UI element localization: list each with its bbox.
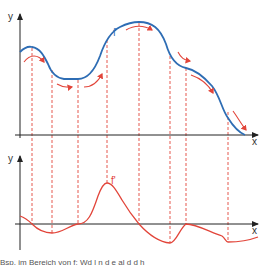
bottom-y-label: y	[8, 153, 13, 164]
derivative-diagram: y x f y x f'	[0, 0, 271, 265]
top-y-label: y	[8, 11, 13, 22]
f-prime-label: f'	[111, 175, 116, 186]
arrow-icon	[57, 84, 72, 87]
caption: Bsp. im Bereich von f: Wd l n d e al d d…	[0, 256, 271, 265]
slope-arrows	[24, 26, 246, 130]
f-label: f	[113, 27, 116, 38]
arrow-icon	[178, 52, 190, 61]
guide-lines	[32, 23, 228, 243]
top-x-label: x	[252, 136, 257, 147]
top-axes	[15, 14, 258, 138]
arrow-icon	[24, 56, 44, 62]
f-curve	[20, 22, 245, 135]
bottom-x-label: x	[252, 225, 257, 236]
